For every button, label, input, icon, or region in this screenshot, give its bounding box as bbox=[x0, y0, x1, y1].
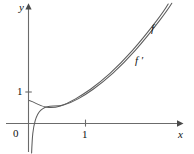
y-axis-arrowhead bbox=[25, 3, 31, 9]
curve-f bbox=[29, 4, 168, 108]
function-graph-figure: y x 0 1 1 f f ′ bbox=[0, 0, 194, 154]
curve-label-f: f bbox=[151, 23, 154, 34]
curve-label-f-prime: f ′ bbox=[135, 55, 143, 66]
x-tick-label-1: 1 bbox=[82, 129, 88, 140]
y-tick-label-1: 1 bbox=[17, 86, 23, 97]
x-axis-arrowhead bbox=[177, 120, 184, 127]
plot-canvas bbox=[0, 0, 194, 154]
y-axis-label: y bbox=[19, 2, 24, 13]
axes-group bbox=[6, 3, 184, 152]
origin-label: 0 bbox=[13, 128, 19, 139]
x-axis-label: x bbox=[178, 129, 183, 140]
